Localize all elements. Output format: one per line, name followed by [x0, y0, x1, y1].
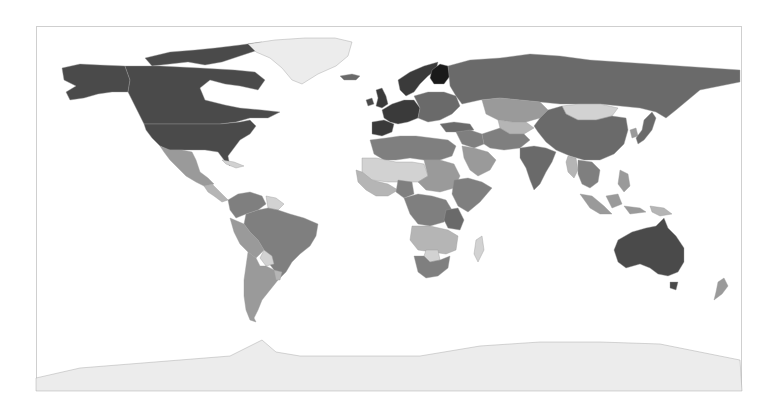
- region-mexico[interactable]: Mexico: [160, 146, 214, 186]
- region-papua-new-guinea[interactable]: Papua New Guinea: [650, 206, 672, 216]
- region-nigeria[interactable]: Nigeria: [396, 180, 414, 198]
- region-korea[interactable]: Korea: [630, 128, 638, 138]
- world-choropleth-map[interactable]: Alaska Canadian Arctic Islands Canada Un…: [0, 0, 775, 410]
- region-greenland[interactable]: Greenland: [248, 38, 352, 84]
- region-central-america[interactable]: Central America: [204, 184, 228, 202]
- region-indonesia[interactable]: Indonesia: [580, 194, 646, 214]
- region-new-zealand[interactable]: New Zealand: [714, 278, 728, 300]
- region-north-africa[interactable]: North Africa: [370, 136, 456, 160]
- region-alaska[interactable]: Alaska: [62, 64, 130, 100]
- region-tanzania[interactable]: Tanzania: [444, 208, 464, 230]
- region-australia[interactable]: Australia: [614, 218, 684, 276]
- region-philippines[interactable]: Philippines: [618, 170, 630, 192]
- region-canada[interactable]: Canada: [125, 66, 280, 124]
- region-middle-east[interactable]: Middle East: [456, 130, 484, 148]
- region-southeast-asia[interactable]: Southeast Asia: [578, 160, 600, 188]
- region-ethiopia-horn[interactable]: Ethiopia/Horn: [452, 178, 492, 212]
- region-india[interactable]: India: [520, 146, 556, 190]
- region-tasmania[interactable]: Tasmania: [670, 282, 678, 290]
- region-ireland[interactable]: Ireland: [366, 98, 374, 106]
- region-myanmar[interactable]: Myanmar: [566, 156, 578, 178]
- region-canada-arctic-islands[interactable]: Canadian Arctic Islands: [145, 42, 262, 66]
- region-japan[interactable]: Japan: [636, 112, 656, 144]
- region-arabian-peninsula[interactable]: Arabian Peninsula: [462, 146, 496, 176]
- region-cuba[interactable]: Cuba: [222, 160, 244, 168]
- region-sahel[interactable]: Sahel: [362, 158, 428, 182]
- region-iceland[interactable]: Iceland: [340, 74, 360, 80]
- region-antarctica[interactable]: Antarctica: [36, 340, 742, 391]
- region-eastern-europe[interactable]: Eastern Europe: [414, 92, 460, 122]
- region-madagascar[interactable]: Madagascar: [474, 236, 484, 262]
- region-united-kingdom[interactable]: United Kingdom: [376, 88, 388, 108]
- region-united-states[interactable]: United States: [144, 120, 256, 166]
- region-iberia[interactable]: Iberia: [372, 120, 394, 136]
- region-guianas[interactable]: Guianas: [266, 196, 284, 210]
